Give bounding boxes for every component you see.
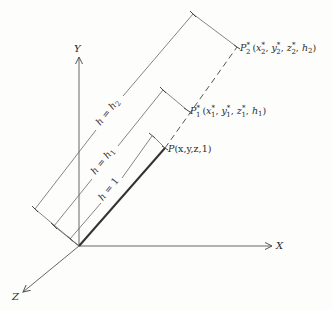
point-label-p: P(x,y,z,1) <box>167 143 211 154</box>
dimension-label-h-h2: h = h2 <box>93 96 122 128</box>
z-axis <box>23 246 79 292</box>
dimension-h-equals-h1: h = h1 <box>51 87 187 246</box>
dimension-label-h1-unit: h = 1 <box>96 175 121 202</box>
diagram-canvas: Y X Z h = 1 h = h1 <box>0 0 332 310</box>
x-axis-label: X <box>275 240 284 251</box>
projection-ray <box>79 45 240 246</box>
point-label-p1: P*1(x*1, y*1, z*1, h1) <box>189 104 266 119</box>
dimension-h-equals-h2: h = h2 <box>32 11 237 246</box>
point-label-p2: P*2(x*2, y*2, z*2, h2) <box>239 41 316 56</box>
y-axis-label: Y <box>74 43 82 54</box>
vector-origin-to-p <box>79 148 165 246</box>
dashed-ray-p-to-p2 <box>165 47 237 148</box>
dimension-h-equals-1: h = 1 <box>67 133 165 246</box>
z-axis-label: Z <box>11 291 20 302</box>
axes: Y X Z <box>11 43 284 302</box>
dimension-label-h-h1: h = h1 <box>88 145 117 177</box>
